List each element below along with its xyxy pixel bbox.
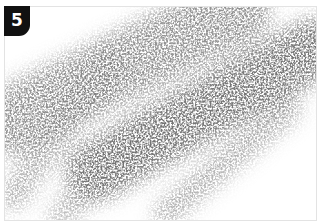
illustration-frame [4,6,317,221]
step-number-badge: 5 [4,6,30,36]
shading-strokes [11,11,313,216]
pencil-shading-illustration [5,7,316,220]
step-number: 5 [11,12,23,29]
